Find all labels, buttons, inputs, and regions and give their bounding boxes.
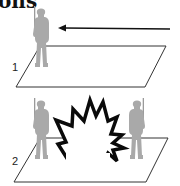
arrow-left-icon [58,25,170,32]
panel-2 [14,98,168,182]
illustration: ons [0,0,180,186]
soldier-icon-left [33,98,49,159]
explosion-icon [56,100,124,167]
soldier-icon-right [129,98,145,159]
panel-1-number: 1 [12,62,18,73]
soldier-icon-1 [33,6,49,67]
diagram-canvas [0,0,180,186]
panel-2-number: 2 [12,156,18,167]
panel-1 [16,6,170,87]
